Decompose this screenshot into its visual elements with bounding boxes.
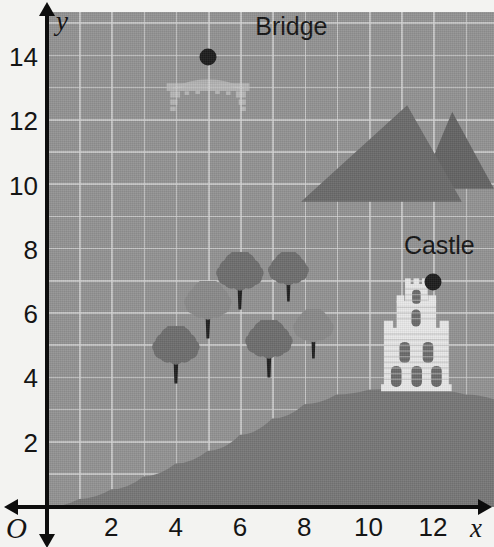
tree-icon <box>244 320 294 379</box>
x-tick-label: 8 <box>297 514 311 540</box>
origin-label: O <box>6 512 27 545</box>
tree-icon <box>292 309 335 360</box>
label-bridge: Bridge <box>255 14 327 39</box>
tree-icon <box>215 252 265 311</box>
x-tick-label: 6 <box>233 514 247 540</box>
castle-icon <box>381 277 452 393</box>
y-tick-label: 10 <box>9 173 38 199</box>
y-axis-name: y <box>56 6 68 37</box>
coordinate-map-figure: BridgeCastle 2468101214 24681012 y x O <box>0 0 494 547</box>
y-tick-label: 6 <box>24 301 38 327</box>
y-axis-arrow-down-icon <box>39 534 55 547</box>
bridge-icon <box>163 76 253 117</box>
plot-area: BridgeCastle <box>47 12 494 507</box>
x-tick-label: 10 <box>354 514 383 540</box>
y-tick-label: 2 <box>24 430 38 456</box>
x-tick-label: 12 <box>418 514 447 540</box>
y-tick-label: 8 <box>24 237 38 263</box>
tree-icon <box>267 252 310 303</box>
x-axis-name: x <box>470 513 482 544</box>
y-tick-label: 12 <box>9 108 38 134</box>
y-tick-label: 14 <box>9 44 38 70</box>
y-axis-arrow-up-icon <box>39 2 55 16</box>
x-tick-label: 2 <box>104 514 118 540</box>
y-tick-label: 4 <box>24 365 38 391</box>
marker-castle[interactable] <box>424 274 441 291</box>
marker-bridge[interactable] <box>199 49 216 66</box>
label-castle: Castle <box>404 233 475 258</box>
x-tick-label: 4 <box>168 514 182 540</box>
y-axis-line <box>45 10 49 543</box>
x-axis-line <box>8 505 486 509</box>
